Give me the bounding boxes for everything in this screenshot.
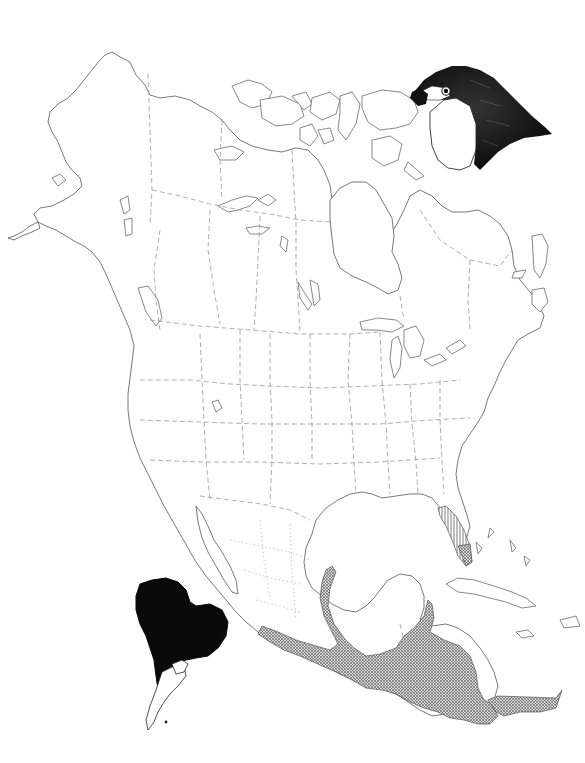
- range-map: [0, 0, 585, 763]
- falcon-head-illustration: [410, 66, 552, 170]
- south-america-inset: [136, 578, 228, 730]
- map-canvas: [0, 0, 585, 763]
